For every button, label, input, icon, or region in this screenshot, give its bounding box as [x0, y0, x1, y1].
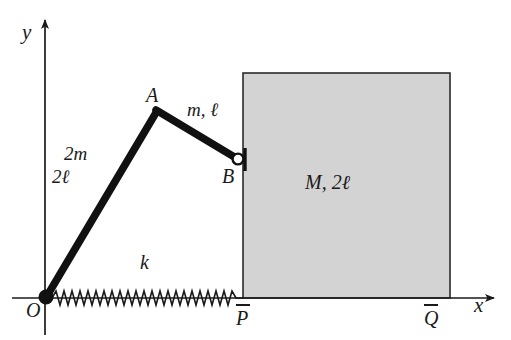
lower-link-mass-label: 2m: [64, 144, 87, 163]
point-label-B: B: [222, 166, 234, 186]
pin-joint-B: [233, 154, 244, 165]
lower-link-properties: 2m 2ℓ: [64, 144, 87, 186]
point-label-Q: Q: [424, 308, 438, 328]
x-axis-label: x: [474, 295, 483, 316]
point-label-A: A: [146, 85, 158, 105]
upper-link-properties-label: m, ℓ: [187, 100, 218, 119]
block-properties-label: M, 2ℓ: [305, 172, 350, 192]
point-label-P: P: [236, 308, 248, 328]
spring-stiffness-label: k: [140, 252, 149, 272]
pin-joint-O: [39, 290, 54, 305]
point-label-O: O: [26, 300, 40, 320]
physics-diagram-figure: y x O A B P Q 2m 2ℓ m, ℓ k M, 2ℓ: [0, 0, 511, 340]
y-axis-label: y: [22, 22, 31, 43]
lower-link-length-label: 2ℓ: [52, 167, 69, 186]
